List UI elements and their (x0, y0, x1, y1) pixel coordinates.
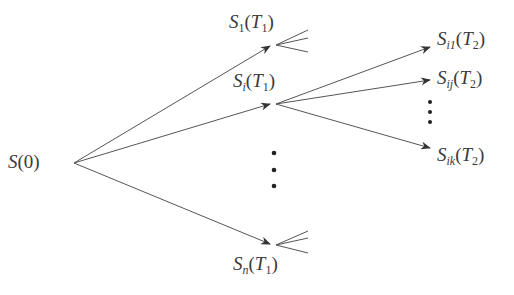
node-si1: Si1(T2) (437, 29, 485, 51)
fan-sn-c (276, 245, 308, 253)
edge-root-s1 (74, 46, 270, 163)
edge-root-si (74, 104, 270, 163)
node-s1: S1(T1) (229, 12, 274, 34)
fan-sn-b (276, 238, 308, 245)
edge-root-sn (74, 163, 270, 244)
edge-si-si1 (276, 47, 430, 104)
node-root: S(0) (8, 152, 40, 171)
fan-s1-a (276, 30, 308, 45)
fan-s1-c (276, 45, 308, 52)
ellipsis-dot (272, 184, 277, 189)
ellipsis-dot (272, 151, 277, 156)
edge-si-sik (276, 104, 430, 148)
edge-si-sij (276, 80, 430, 104)
ellipsis-dot (428, 110, 432, 114)
ellipsis-dot (272, 168, 277, 173)
ellipsis-dot (428, 120, 432, 124)
state-tree-diagram: S(0) S1(T1) Si(T1) Sn(T1) Si1(T2) Sij(T2… (0, 0, 514, 295)
fan-sn-a (276, 231, 308, 245)
node-sik: Sik(T2) (437, 145, 484, 167)
fan-s1-b (276, 38, 308, 45)
node-sij: Sij(T2) (437, 68, 482, 90)
node-si: Si(T1) (233, 71, 275, 93)
ellipsis-dot (428, 100, 432, 104)
node-sn: Sn(T1) (233, 254, 278, 276)
